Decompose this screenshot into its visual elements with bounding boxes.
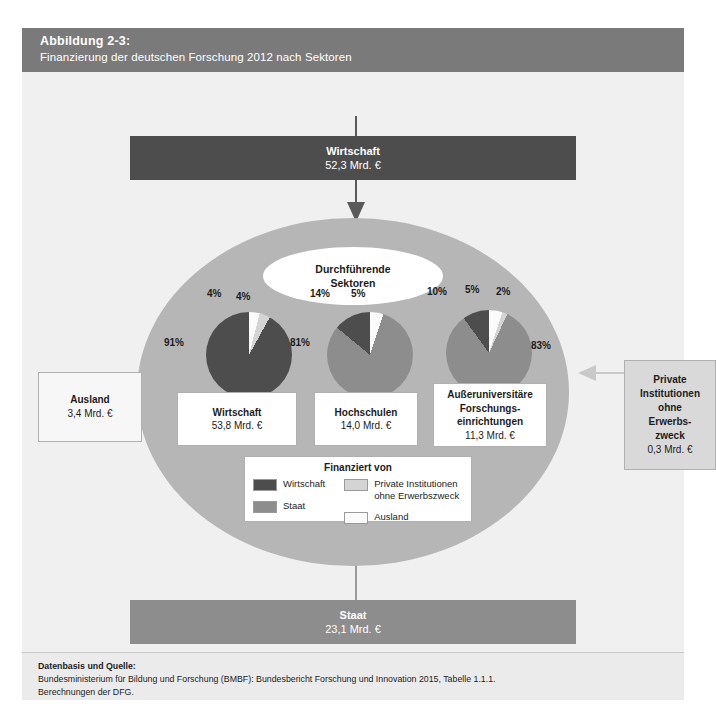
ausland-label: Ausland [70,393,109,407]
diagram-panel: Wirtschaft 52,3 Mrd. € Staat 23,1 Mrd. €… [22,72,684,652]
pie1-label-private: 4% [236,291,250,302]
figure-number: Abbildung 2-3: [40,34,684,48]
footer-title: Datenbasis und Quelle: [38,660,684,673]
legend-item-ausland: Ausland [344,511,463,524]
sector-box-wirtschaft: Wirtschaft 53,8 Mrd. € [177,392,297,446]
legend-item-staat: Staat [253,500,344,513]
footer-source-line1: Bundesministerium für Bildung und Forsch… [38,673,684,686]
ausland-value: 3,4 Mrd. € [67,407,112,421]
private-value: 0,3 Mrd. € [647,443,692,457]
funding-source-staat-bar: Staat 23,1 Mrd. € [130,600,576,644]
pie2-label-wirtschaft: 14% [310,288,330,299]
private-line2: Institutionen [640,387,700,401]
funding-source-private-box: Private Institutionen ohne Erwerbs- zwec… [624,360,716,470]
figure-footer: Datenbasis und Quelle: Bundesministerium… [22,652,684,700]
pie-chart-hochschulen [327,312,413,398]
legend-label-wirtschaft: Wirtschaft [283,478,325,490]
private-line3: ohne [658,401,682,415]
pie2-label-ausland: 5% [351,288,365,299]
sector-hochschulen-value: 14,0 Mrd. € [341,419,392,433]
legend-swatch-ausland [344,512,368,524]
sector-wirtschaft-name: Wirtschaft [213,406,262,420]
pie3-label-ausland: 5% [465,284,479,295]
sector-ausseruniv-name3: einrichtungen [457,415,523,429]
funding-source-wirtschaft-bar: Wirtschaft 52,3 Mrd. € [130,136,576,180]
top-bar-value: 52,3 Mrd. € [325,158,381,172]
sector-ausseruniv-value: 11,3 Mrd. € [465,429,515,443]
legend-swatch-staat [253,501,277,513]
legend-swatch-wirtschaft [253,479,277,491]
legend-box: Finanziert von Wirtschaft Staat Priv [244,456,472,522]
pie3-label-wirtschaft: 10% [427,286,447,297]
performing-sectors-line1: Durchführende [315,262,390,276]
legend-label-ausland: Ausland [374,511,408,523]
figure-title: Finanzierung der deutschen Forschung 201… [40,51,684,63]
sector-ausseruniv-name1: Außeruniversitäre [447,388,533,402]
sector-hochschulen-name: Hochschulen [335,406,398,420]
legend-item-wirtschaft: Wirtschaft [253,478,344,491]
bottom-bar-label: Staat [340,608,367,622]
pie3-label-private: 2% [496,286,510,297]
funding-source-ausland-box: Ausland 3,4 Mrd. € [38,372,142,442]
sector-ausseruniv-name2: Forschungs- [460,402,521,416]
bottom-bar-value: 23,1 Mrd. € [325,622,381,636]
top-bar-label: Wirtschaft [326,144,380,158]
figure-header: Abbildung 2-3: Finanzierung der deutsche… [22,28,684,72]
figure-container: Abbildung 2-3: Finanzierung der deutsche… [22,28,684,700]
legend-label-staat: Staat [283,500,305,512]
pie1-label-wirtschaft: 91% [164,337,184,348]
pie3-label-staat: 83% [531,340,551,351]
private-line1: Private [653,373,686,387]
sector-wirtschaft-value: 53,8 Mrd. € [212,419,263,433]
legend-item-private: Private Institutionen ohne Erwerbszweck [344,478,463,502]
sector-box-ausseruniversitaere: Außeruniversitäre Forschungs- einrichtun… [433,383,547,447]
legend-swatch-private [344,479,368,491]
private-line4: Erwerbs- [649,415,692,429]
legend-label-private: Private Institutionen ohne Erwerbszweck [374,478,463,502]
legend-title: Finanziert von [245,462,471,473]
sector-box-hochschulen: Hochschulen 14,0 Mrd. € [314,392,418,446]
footer-source-line2: Berechnungen der DFG. [38,686,684,699]
private-line5: zweck [655,429,684,443]
arrow-private-to-ellipse [578,360,624,386]
pie2-label-staat: 81% [290,337,310,348]
pie1-label-ausland: 4% [207,288,221,299]
pie-chart-wirtschaft [206,312,292,398]
